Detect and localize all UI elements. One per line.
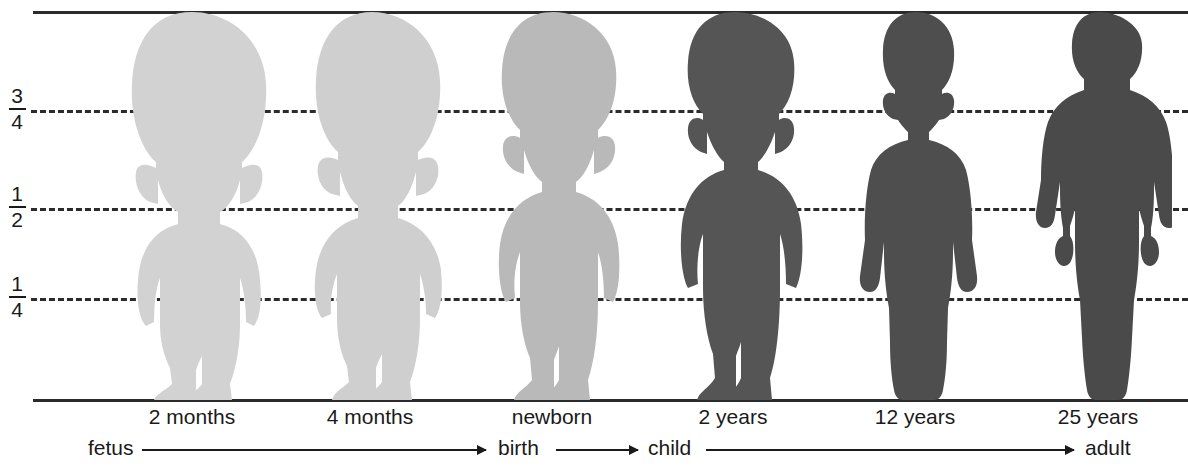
- stage-label-12-years: 12 years: [835, 405, 995, 429]
- fraction-numerator: 1: [4, 183, 30, 205]
- axis-label-one-half: 1 2: [4, 183, 30, 230]
- fraction-numerator: 1: [4, 273, 30, 295]
- silhouette-path: [1036, 12, 1172, 400]
- silhouette-child-12-years: [846, 12, 986, 401]
- guide-line-three-quarters: [31, 110, 1188, 113]
- silhouette-body-child-2-years: [681, 12, 803, 400]
- silhouette-child-2-years: [662, 12, 808, 401]
- silhouette-body-fetus-2-months: [132, 12, 266, 400]
- timeline-label-birth: birth: [498, 436, 539, 460]
- top-rule: [33, 11, 1188, 14]
- silhouette-path: [499, 12, 620, 400]
- timeline-arrow-child-to-adult: [706, 449, 1074, 451]
- silhouette-path: [860, 12, 977, 400]
- timeline-arrow-birth-to-child: [556, 449, 638, 451]
- stage-label-newborn: newborn: [472, 405, 632, 429]
- silhouette-newborn: [478, 12, 628, 401]
- fraction-denominator: 2: [4, 209, 30, 231]
- fraction-denominator: 4: [4, 111, 30, 133]
- stage-label-25-years: 25 years: [1018, 405, 1178, 429]
- silhouette-fetus-2-months: [110, 12, 274, 401]
- silhouette-fetus-4-months: [292, 12, 452, 401]
- silhouette-body-adult-25-years: [1036, 12, 1172, 400]
- timeline-label-child: child: [648, 436, 691, 460]
- silhouette-body-newborn: [499, 12, 620, 400]
- stage-label-4-months: 4 months: [290, 405, 450, 429]
- silhouette-path: [681, 12, 803, 400]
- fraction-denominator: 4: [4, 299, 30, 321]
- guide-line-one-quarter: [31, 298, 1188, 301]
- fraction-numerator: 3: [4, 85, 30, 107]
- timeline-arrow-fetus-to-birth: [142, 449, 486, 451]
- stage-label-2-years: 2 years: [653, 405, 813, 429]
- silhouette-path: [315, 12, 442, 400]
- silhouette-path: [132, 12, 266, 400]
- axis-label-three-quarters: 3 4: [4, 85, 30, 132]
- silhouette-body-fetus-4-months: [315, 12, 442, 400]
- guide-line-one-half: [31, 208, 1188, 211]
- timeline-label-fetus: fetus: [88, 436, 134, 460]
- silhouette-body-child-12-years: [860, 12, 977, 400]
- stage-label-2-months: 2 months: [112, 405, 272, 429]
- body-proportions-figure: 3 4 1 2 1 4: [0, 0, 1188, 469]
- silhouette-adult-25-years: [1028, 12, 1172, 401]
- timeline-label-adult: adult: [1085, 436, 1131, 460]
- development-timeline: fetus birth child adult: [0, 436, 1188, 466]
- axis-label-one-quarter: 1 4: [4, 273, 30, 320]
- baseline-rule: [33, 399, 1188, 402]
